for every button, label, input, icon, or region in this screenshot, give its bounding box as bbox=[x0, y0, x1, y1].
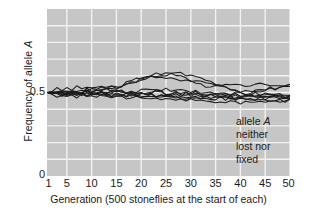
annotation-allele-word: allele bbox=[236, 115, 263, 127]
x-tick-label-20: 20 bbox=[135, 177, 147, 189]
y-tick-label-0.5: 0.5 bbox=[18, 85, 45, 97]
x-tick-label-45: 45 bbox=[259, 177, 271, 189]
x-tick-label-10: 10 bbox=[86, 177, 98, 189]
x-axis-title: Generation (500 stoneflies at the start … bbox=[0, 193, 317, 205]
x-tick-label-50: 50 bbox=[282, 177, 294, 189]
x-tick-label-35: 35 bbox=[209, 177, 221, 189]
plot-area: allele A neither lost nor fixed bbox=[47, 9, 290, 176]
x-tick-label-15: 15 bbox=[110, 177, 122, 189]
annotation-allele-symbol: A bbox=[263, 115, 270, 127]
x-tick-label-1: 1 bbox=[45, 177, 51, 189]
x-axis-tick-labels: 15101520253035404550 bbox=[47, 177, 290, 191]
annotation-line-4: fixed bbox=[236, 153, 270, 166]
x-tick-label-40: 40 bbox=[234, 177, 246, 189]
annotation-line-1: allele A bbox=[236, 115, 270, 128]
x-tick-label-5: 5 bbox=[64, 177, 70, 189]
x-tick-label-30: 30 bbox=[185, 177, 197, 189]
y-axis-title-allele-symbol: A bbox=[22, 41, 34, 48]
annotation-line-3: lost nor bbox=[236, 140, 270, 153]
y-tick-label-0: 0 bbox=[18, 168, 45, 180]
x-tick-label-25: 25 bbox=[160, 177, 172, 189]
annotation-line-2: neither bbox=[236, 128, 270, 141]
plot-annotation: allele A neither lost nor fixed bbox=[236, 115, 270, 165]
figure-allele-frequency-drift: Frequency of allele A 0.5 0 allele A nei… bbox=[0, 0, 317, 215]
